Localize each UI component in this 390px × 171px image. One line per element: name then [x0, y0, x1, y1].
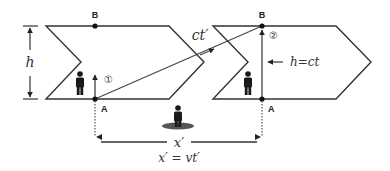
point-a-left-label: A	[101, 104, 108, 114]
left-frame-shape	[46, 26, 204, 99]
light-clock-diagram: h ct′ ① ② h=ct B A B A x′ x′ = vt′	[0, 0, 390, 171]
point-a-right-label: A	[268, 104, 275, 114]
step-1-marker: ①	[104, 74, 113, 85]
point-b-right-label: B	[259, 10, 266, 20]
height-eq-label: h=ct	[290, 55, 320, 69]
height-label: h	[25, 54, 34, 70]
point-b-right	[259, 23, 264, 28]
point-a-left	[92, 96, 97, 101]
stationary-observer-icon	[162, 105, 194, 129]
displacement-label: x′	[174, 135, 184, 150]
point-b-left	[92, 23, 97, 28]
point-a-right	[259, 96, 264, 101]
person-icon-right	[244, 71, 252, 95]
displacement-eq-label: x′ = vt′	[158, 151, 200, 165]
step-2-marker: ②	[269, 30, 278, 41]
person-icon-left	[76, 71, 84, 95]
point-b-left-label: B	[92, 10, 99, 20]
light-path-label: ct′	[192, 27, 209, 43]
